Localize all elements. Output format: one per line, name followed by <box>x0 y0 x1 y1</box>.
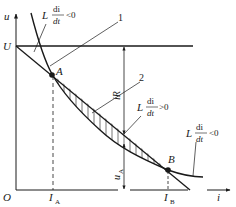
leader-curve-1 <box>50 22 118 66</box>
svg-text:di: di <box>147 96 155 106</box>
arc-stability-diagram: u i O U A B I A I B 1 2 iR u A L di dt <… <box>0 0 236 207</box>
svg-text:L: L <box>136 101 143 113</box>
x-axis-label: i <box>217 191 220 203</box>
svg-text:L: L <box>185 127 192 139</box>
svg-text:A: A <box>55 198 60 206</box>
point-b-label: B <box>168 153 175 165</box>
svg-text:I: I <box>163 191 169 203</box>
ir-label: iR <box>111 91 122 100</box>
svg-text:B: B <box>170 198 175 206</box>
origin-label: O <box>3 191 11 203</box>
right-condition-label: L di dt <0 <box>185 122 219 144</box>
voltage-label: U <box>3 40 12 52</box>
svg-text:I: I <box>48 191 54 203</box>
top-condition-label: L di dt <0 <box>41 4 76 26</box>
svg-text:L: L <box>41 9 48 21</box>
svg-text:di: di <box>53 4 61 14</box>
curve-1-label: 1 <box>118 12 123 23</box>
svg-text:<0: <0 <box>209 128 219 138</box>
point-a-label: A <box>55 65 63 77</box>
hatched-region <box>58 60 160 190</box>
leader-right-condition <box>193 142 196 176</box>
svg-text:u: u <box>111 175 122 180</box>
leader-mid-condition <box>124 116 141 134</box>
ua-label: u A <box>111 169 125 180</box>
y-axis-label: u <box>4 10 10 22</box>
svg-text:A: A <box>117 169 125 174</box>
curve-2-label: 2 <box>139 72 144 83</box>
svg-text:dt: dt <box>53 16 61 26</box>
svg-text:>0: >0 <box>159 102 169 112</box>
svg-text:<0: <0 <box>66 10 76 20</box>
svg-text:dt: dt <box>147 108 155 118</box>
current-ib-label: I B <box>163 191 175 206</box>
point-b-marker <box>165 167 171 173</box>
mid-condition-label: L di dt >0 <box>136 96 169 118</box>
point-a-marker <box>49 72 55 78</box>
current-ia-label: I A <box>48 191 60 206</box>
svg-text:dt: dt <box>196 134 204 144</box>
svg-text:di: di <box>196 122 204 132</box>
